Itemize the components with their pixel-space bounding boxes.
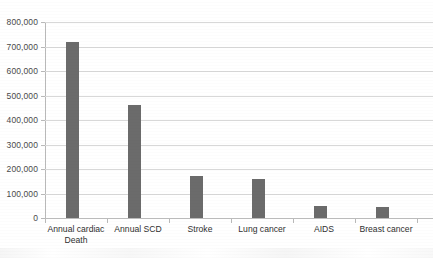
bar-stroke <box>190 176 203 218</box>
y-axis-tick-label: 300,000 <box>0 141 38 150</box>
x-axis-label-annual-scd: Annual SCD <box>107 224 169 235</box>
x-axis-baseline <box>45 218 433 219</box>
x-axis-label-breast-cancer: Breast cancer <box>355 224 417 235</box>
y-axis-tick-label: 0 <box>0 214 38 223</box>
y-axis-tick-label: 700,000 <box>0 43 38 52</box>
x-axis-label-annual-cardiac-death: Annual cardiac Death <box>45 224 107 246</box>
x-axis-tick-mark <box>355 219 356 223</box>
plot-area <box>45 22 433 218</box>
gridline <box>45 47 433 48</box>
gridline <box>45 194 433 195</box>
x-axis-tick-mark <box>169 219 170 223</box>
bar-lung-cancer <box>252 179 265 218</box>
gridline <box>45 145 433 146</box>
y-axis-tick-label: 800,000 <box>0 18 38 27</box>
x-axis-label-stroke: Stroke <box>169 224 231 235</box>
y-axis-tick-label: 500,000 <box>0 92 38 101</box>
gridline <box>45 120 433 121</box>
y-axis-tick-label: 200,000 <box>0 165 38 174</box>
x-axis-tick-mark <box>293 219 294 223</box>
gridline <box>45 169 433 170</box>
x-axis-label-lung-cancer: Lung cancer <box>231 224 293 235</box>
bar-annual-scd <box>128 105 141 218</box>
bar-annual-cardiac-death <box>66 42 79 218</box>
y-axis-tick-label: 400,000 <box>0 116 38 125</box>
x-axis-tick-mark <box>107 219 108 223</box>
y-axis-tick-label: 100,000 <box>0 190 38 199</box>
x-axis-label-aids: AIDS <box>293 224 355 235</box>
bar-chart: 800,000 700,000 600,000 500,000 400,000 … <box>0 0 433 258</box>
bar-aids <box>314 206 327 218</box>
bar-breast-cancer <box>376 207 389 218</box>
y-axis-tick-label: 600,000 <box>0 67 38 76</box>
gridline <box>45 22 433 23</box>
scan-smudge-overlay <box>0 248 433 258</box>
x-axis-tick-mark <box>417 219 418 223</box>
gridline <box>45 71 433 72</box>
x-axis-tick-mark <box>45 219 46 223</box>
x-axis-tick-mark <box>231 219 232 223</box>
gridline <box>45 96 433 97</box>
